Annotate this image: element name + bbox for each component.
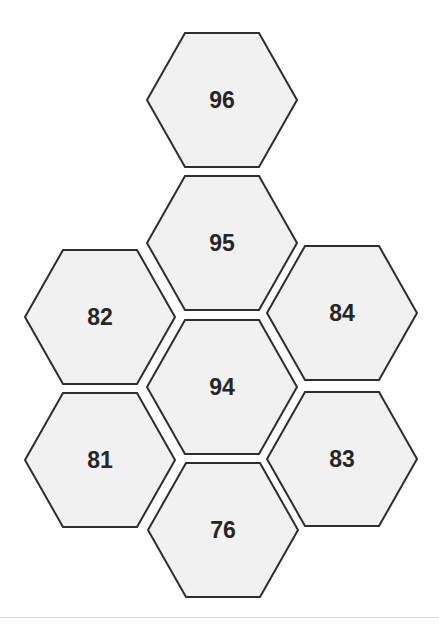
hexagon-label: 81 [87,447,113,473]
hexagon-83: 83 [267,392,417,526]
hexagon-canvas: 9695828494818376 [0,0,439,630]
hexagon-label: 83 [329,446,355,472]
hexagon-label: 95 [209,230,235,256]
hexagon-96: 96 [147,33,297,167]
hexagon-diagram: 9695828494818376 [0,0,439,630]
hexagon-76: 76 [148,463,298,597]
hexagon-label: 94 [209,374,235,400]
hexagon-label: 76 [210,517,236,543]
bottom-divider [0,617,439,618]
hexagon-label: 96 [209,87,235,113]
hexagon-label: 82 [87,304,113,330]
hexagon-84: 84 [267,246,417,380]
hexagon-82: 82 [25,250,175,384]
hexagon-94: 94 [147,320,297,454]
hexagon-81: 81 [25,393,175,527]
hexagon-label: 84 [329,300,355,326]
hexagon-95: 95 [147,176,297,310]
